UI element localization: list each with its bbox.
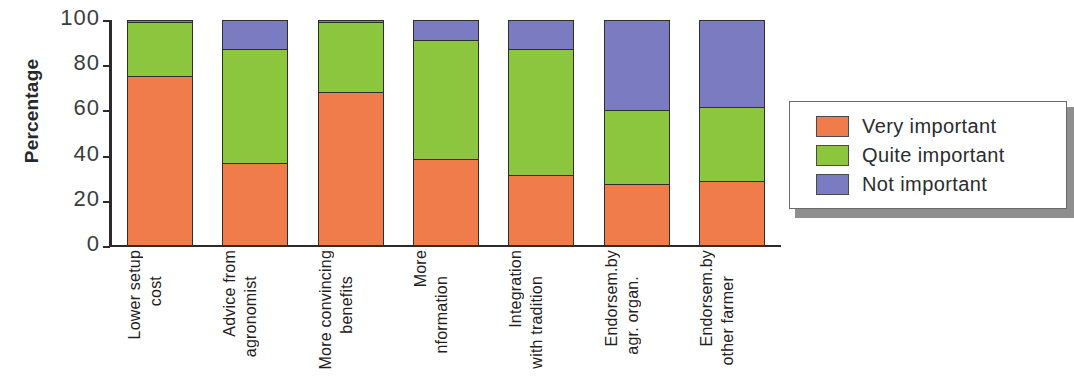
stacked-bar-chart: Percentage 020406080100 Very importantQu…	[0, 0, 1074, 384]
x-category-label-line: More convincing	[317, 250, 335, 370]
stacked-bar[interactable]	[222, 20, 288, 246]
bar-column	[508, 20, 574, 246]
y-tick-label: 100	[44, 7, 100, 29]
y-tick-mark	[103, 110, 110, 112]
bar-segment	[509, 21, 573, 50]
y-tick-label: 40	[44, 143, 100, 165]
bar-segment	[128, 23, 192, 77]
bar-segment	[700, 21, 764, 108]
y-tick-mark	[103, 246, 110, 248]
y-tick-mark	[103, 20, 110, 22]
chart-legend: Very importantQuite importantNot importa…	[789, 101, 1067, 209]
x-category-label: Lower setupcost	[126, 250, 188, 382]
x-category-label-line: Advice from	[221, 250, 239, 337]
bar-segment	[700, 182, 764, 245]
legend-item[interactable]: Very important	[816, 112, 1066, 141]
legend-color-swatch	[816, 174, 849, 195]
x-category-label: More convincingbenefits	[317, 250, 379, 382]
x-category-label-line: cost	[147, 276, 165, 306]
y-tick-label: 80	[44, 52, 100, 74]
bar-segment	[605, 21, 669, 111]
plot-area	[112, 20, 780, 246]
legend-shadow-right	[1067, 107, 1074, 215]
stacked-bar[interactable]	[318, 20, 384, 246]
stacked-bar[interactable]	[413, 20, 479, 246]
x-category-label-line: benefits	[338, 276, 356, 334]
bar-segment	[605, 185, 669, 245]
bar-segment	[414, 160, 478, 245]
bar-column	[413, 20, 479, 246]
stacked-bar[interactable]	[604, 20, 670, 246]
y-tick-mark	[103, 65, 110, 67]
y-tick-label: 20	[44, 188, 100, 210]
bar-column	[699, 20, 765, 246]
bar-segment	[605, 111, 669, 185]
x-category-label-line: Endorsem.by	[603, 250, 621, 346]
bar-segment	[414, 41, 478, 160]
x-category-label-line: More	[412, 250, 430, 287]
y-tick-mark	[103, 156, 110, 158]
x-category-label: Endorsem.byagr. organ.	[603, 250, 665, 382]
x-category-label-line: nformation	[433, 276, 451, 354]
legend-color-swatch	[816, 116, 849, 137]
y-tick-label: 60	[44, 97, 100, 119]
bar-segment	[700, 108, 764, 182]
bar-segment	[414, 21, 478, 41]
legend-item[interactable]: Not important	[816, 170, 1066, 199]
bar-column	[318, 20, 384, 246]
bar-segment	[319, 23, 383, 92]
x-category-label: Morenformation	[412, 250, 474, 382]
legend-item-label: Not important	[862, 173, 987, 196]
bar-segment	[128, 77, 192, 245]
bar-segment	[223, 21, 287, 50]
y-axis-title: Percentage	[21, 41, 43, 181]
stacked-bar[interactable]	[508, 20, 574, 246]
x-category-label-line: Lower setup	[126, 250, 144, 339]
bar-column	[604, 20, 670, 246]
x-category-label-line: agronomist	[242, 276, 260, 357]
bar-column	[127, 20, 193, 246]
x-category-label-line: agr. organ.	[624, 276, 642, 355]
stacked-bar[interactable]	[127, 20, 193, 246]
legend-color-swatch	[816, 145, 849, 166]
x-category-label: Integrationwith tradition	[507, 250, 569, 382]
bar-column	[222, 20, 288, 246]
x-category-label-line: other farmer	[719, 276, 737, 366]
y-tick-label: 0	[44, 233, 100, 255]
legend-shadow	[795, 209, 1074, 218]
x-category-label: Endorsem.byother farmer	[698, 250, 760, 382]
bar-segment	[509, 176, 573, 245]
x-category-label-line: Endorsem.by	[698, 250, 716, 346]
bar-segment	[223, 164, 287, 245]
bar-segment	[319, 93, 383, 245]
legend-item[interactable]: Quite important	[816, 141, 1066, 170]
y-axis-tick-labels: 020406080100	[44, 0, 100, 384]
legend-item-label: Very important	[862, 115, 997, 138]
bar-segment	[509, 50, 573, 175]
bar-segment	[223, 50, 287, 164]
legend-item-label: Quite important	[862, 144, 1005, 167]
x-category-label: Advice fromagronomist	[221, 250, 283, 382]
x-category-label-line: Integration	[507, 250, 525, 328]
stacked-bar[interactable]	[699, 20, 765, 246]
y-tick-mark	[103, 201, 110, 203]
x-category-label-line: with tradition	[528, 276, 546, 369]
